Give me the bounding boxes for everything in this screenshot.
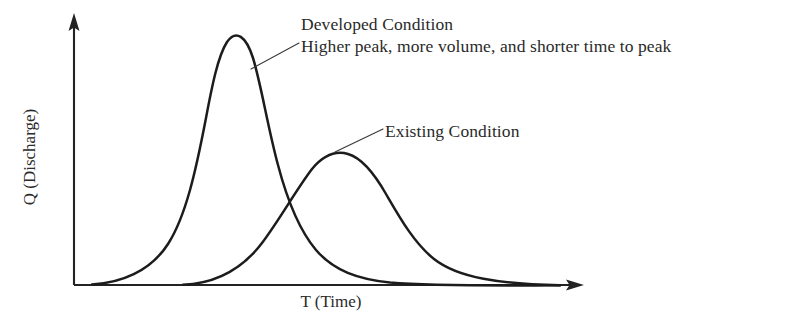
leader-line-existing [335,129,383,152]
leader-line-developed [251,43,299,69]
curve-developed-condition [92,35,560,285]
hydrograph-figure: Developed Condition Higher peak, more vo… [0,0,787,336]
annotation-existing-condition: Existing Condition [385,120,520,142]
x-axis-label: T (Time) [281,292,381,312]
annotation-developed-title: Developed Condition [301,14,453,34]
y-axis-label: Q (Discharge) [20,87,40,227]
annotation-developed-condition: Developed Condition Higher peak, more vo… [301,13,671,57]
annotation-developed-detail: Higher peak, more volume, and shorter ti… [301,35,671,57]
curve-existing-condition [183,153,560,285]
annotation-existing-title: Existing Condition [385,121,520,141]
